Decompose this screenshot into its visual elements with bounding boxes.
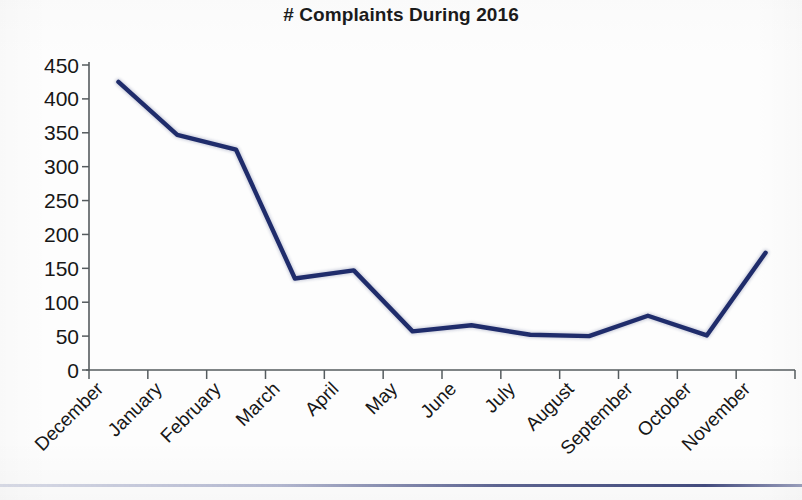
y-axis-tick-label: 400 — [44, 87, 79, 110]
x-axis-tick-mark-group — [89, 370, 795, 379]
x-axis-tick-label: June — [416, 378, 460, 422]
x-axis-tick-label: December — [30, 378, 107, 455]
y-axis-tick-label: 0 — [67, 359, 79, 382]
y-axis-tick-label: 100 — [44, 291, 79, 314]
x-axis-tick-label: July — [480, 378, 519, 417]
y-axis-tick-label: 300 — [44, 155, 79, 178]
y-axis-tick-label: 200 — [44, 223, 79, 246]
y-axis-tick-label: 150 — [44, 257, 79, 280]
y-axis-tick-label-group: 050100150200250300350400450 — [44, 54, 79, 382]
y-axis-tick-label: 350 — [44, 121, 79, 144]
x-axis-tick-label: August — [521, 377, 578, 434]
y-axis-tick-mark-group — [82, 65, 89, 370]
y-axis-tick-label: 50 — [56, 325, 79, 348]
x-axis-tick-label: May — [361, 378, 402, 419]
x-axis-tick-label: March — [232, 378, 284, 430]
x-axis-tick-label: February — [156, 378, 225, 447]
line-chart-plot: 050100150200250300350400450 DecemberJanu… — [0, 0, 802, 500]
x-axis-tick-label: April — [301, 378, 343, 420]
complaints-line — [118, 82, 765, 336]
complaints-line-shadow — [118, 82, 765, 336]
y-axis-tick-label: 250 — [44, 189, 79, 212]
x-axis-tick-label-group: DecemberJanuaryFebruaryMarchAprilMayJune… — [30, 377, 754, 458]
chart-page: # Complaints During 2016 050100150200250… — [0, 0, 802, 500]
page-bottom-edge-artifact — [0, 484, 802, 487]
y-axis-tick-label: 450 — [44, 54, 79, 77]
